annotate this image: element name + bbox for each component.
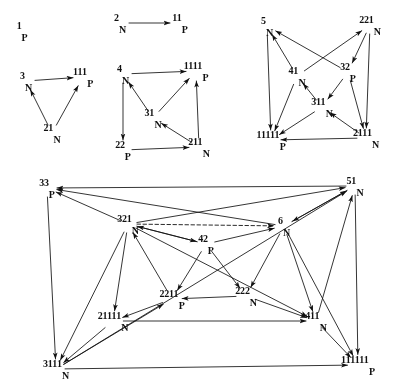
graph-node-11111P: 11111P [256,129,285,150]
node-subscript: P [179,299,185,310]
node-subscript: N [356,186,363,197]
graph-node-311N: 311N [311,96,333,117]
node-lead-digits: 222 [235,285,249,296]
node-subscript: P [280,140,286,151]
node-lead-digits: 32 [340,61,350,72]
node-tally-marks: 11 [193,136,203,147]
graph-node-111P: 111P [73,66,93,87]
node-subscript: N [121,321,128,332]
node-subscript: P [182,23,188,34]
node-tally-marks: 1 [369,14,374,25]
node-subscript: N [283,226,290,237]
node-tally-marks: 1 [48,122,53,133]
node-tally-marks: 11 [316,96,326,107]
node-subscript: N [154,118,161,129]
graph-node-321N: 321N [117,213,139,234]
node-tally-marks: 11111 [256,129,279,140]
node-lead-digits: 22 [359,14,369,25]
node-subscript: N [266,26,273,37]
node-lead-digits: 5 [261,15,266,26]
node-tally-marks: 1111 [103,310,122,321]
node-tally-marks: 1111 [184,60,203,71]
node-subscript: N [298,76,305,87]
node-tally-marks: 111 [48,358,62,369]
node-subscript: N [119,23,126,34]
graph-node-5N: 5N [261,15,273,36]
node-subscript: P [350,72,356,83]
graph-node-32P: 32P [340,61,356,82]
node-subscript: N [374,25,381,36]
graph-node-11P: 11P [172,12,188,33]
node-subscript: P [369,365,375,376]
node-lead-digits: 6 [278,215,283,226]
node-lead-digits: 3 [20,70,25,81]
node-subscript: N [53,133,60,144]
node-lead-digits: 32 [117,213,127,224]
node-subscript: P [21,31,27,42]
node-subscript: N [326,107,333,118]
node-tally-marks: 11 [310,310,320,321]
graph-node-111111P: 111111P [341,354,375,375]
graph-node-2N: 2N [114,12,126,33]
graph-node-411N: 411N [305,310,327,331]
graph-node-6N: 6N [278,215,290,236]
node-subscript: N [250,296,257,307]
graph-node-3N: 3N [20,70,32,91]
graph-node-42P: 42P [198,233,214,254]
node-tally-marks: 1 [127,213,132,224]
node-lead-digits: 1 [17,20,22,31]
node-subscript: P [125,150,131,161]
graph-node-2211P: 2211P [159,288,184,309]
node-tally-marks: 1 [149,107,154,118]
node-subscript: N [122,74,129,85]
node-tally-marks: 11 [172,12,182,23]
graph-node-2111N: 2111N [353,127,379,148]
graph-node-21N: 21N [44,122,61,143]
graph-node-3111N: 3111N [43,358,69,379]
graph-node-1P: 1P [17,20,28,41]
graph-node-51N: 51N [347,175,364,196]
graph-node-31N: 31N [145,107,162,128]
node-tally-marks: 11 [169,288,179,299]
node-layer: 1P2N11P3N111P21N4N1111P31N22P211N5N221N4… [0,0,398,387]
figure-canvas: 1P2N11P3N111P21N4N1111P31N22P211N5N221N4… [0,0,398,387]
graph-node-33P: 33P [39,177,55,198]
graph-node-41N: 41N [289,65,306,86]
graph-node-22P: 22P [115,139,131,160]
node-subscript: N [132,224,139,235]
node-subscript: N [203,147,210,158]
node-subscript: N [372,138,379,149]
node-lead-digits: 4 [117,63,122,74]
graph-node-1111P: 1111P [184,60,209,81]
node-tally-marks: 1 [293,65,298,76]
node-lead-digits: 33 [39,177,49,188]
node-subscript: N [320,321,327,332]
node-tally-marks: 111 [73,66,87,77]
node-subscript: P [87,77,93,88]
graph-node-211N: 211N [188,136,210,157]
node-lead-digits: 42 [198,233,208,244]
graph-node-221N: 221N [359,14,381,35]
node-subscript: N [25,81,32,92]
node-lead-digits: 22 [159,288,169,299]
node-subscript: P [202,71,208,82]
graph-node-222N: 222N [235,285,256,306]
node-tally-marks: 1 [351,175,356,186]
node-lead-digits: 22 [115,139,125,150]
node-tally-marks: 111111 [341,354,369,365]
graph-node-21111N: 21111N [98,310,129,331]
node-subscript: P [49,188,55,199]
node-tally-marks: 111 [358,127,372,138]
node-lead-digits: 2 [114,12,119,23]
node-subscript: P [208,244,214,255]
graph-node-4N: 4N [117,63,129,84]
node-subscript: N [62,369,69,380]
